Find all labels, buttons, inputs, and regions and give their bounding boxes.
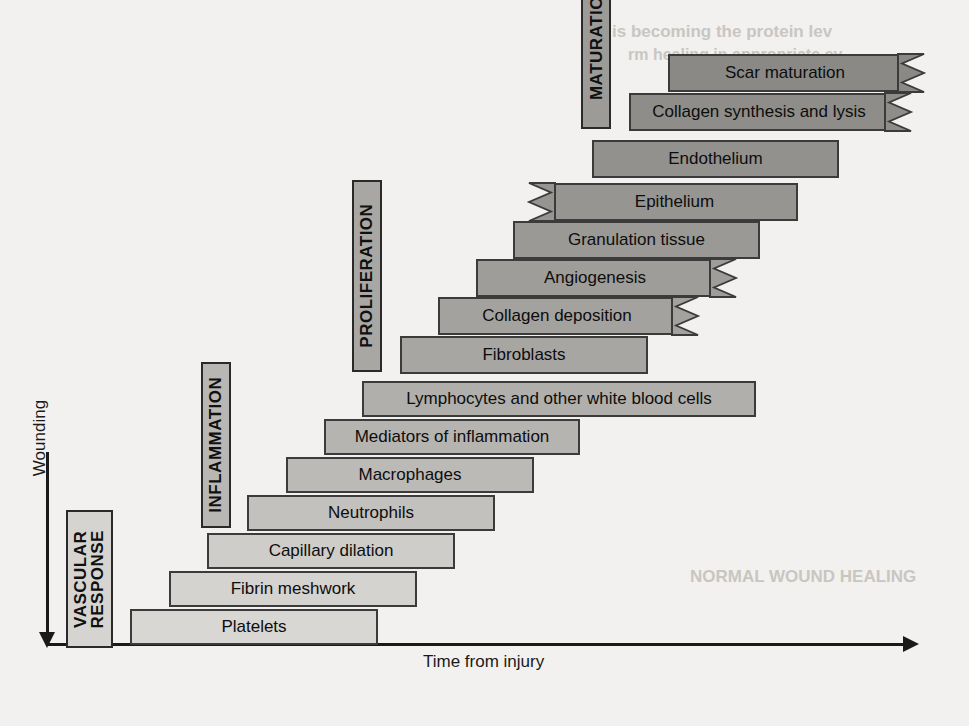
- process-bar-label: Collagen synthesis and lysis: [652, 102, 866, 122]
- torn-edge-right-icon: [672, 297, 698, 335]
- process-bar: Mediators of inflammation: [324, 419, 580, 455]
- x-axis-label: Time from injury: [423, 652, 544, 672]
- process-bar: Platelets: [130, 609, 378, 645]
- x-axis-arrow-icon: [903, 636, 919, 652]
- process-bar: Capillary dilation: [207, 533, 455, 569]
- torn-edge-right-icon: [898, 54, 924, 92]
- process-bar-label: Platelets: [221, 617, 286, 637]
- torn-edge-right-icon: [885, 93, 911, 131]
- process-bar-label: Angiogenesis: [544, 268, 646, 288]
- process-bar-label: Mediators of inflammation: [355, 427, 550, 447]
- phase-label-text: MATURATION: [587, 0, 604, 100]
- process-bar-label: Lymphocytes and other white blood cells: [406, 389, 712, 409]
- phase-label-proliferation: PROLIFERATION: [352, 180, 382, 372]
- process-bar: Fibrin meshwork: [169, 571, 417, 607]
- process-bar: Neutrophils: [247, 495, 495, 531]
- process-bar-label: Granulation tissue: [568, 230, 705, 250]
- phase-label-vascular-response: VASCULARRESPONSE: [66, 510, 113, 648]
- y-axis-label: Wounding: [30, 378, 50, 498]
- y-axis-arrow-icon: [39, 632, 55, 648]
- process-bar: Epithelium: [551, 183, 798, 221]
- process-bar-label: Collagen deposition: [482, 306, 631, 326]
- process-bar: Endothelium: [592, 140, 839, 178]
- process-bar: Macrophages: [286, 457, 534, 493]
- process-bar: Collagen synthesis and lysis: [629, 93, 889, 131]
- torn-edge-right-icon: [710, 259, 736, 297]
- bleed-through-text: is becoming the protein lev: [612, 22, 832, 42]
- process-bar-label: Neutrophils: [328, 503, 414, 523]
- phase-label-text: VASCULARRESPONSE: [72, 530, 107, 628]
- phase-label-text: INFLAMMATION: [207, 377, 224, 513]
- process-bar: Granulation tissue: [513, 221, 760, 259]
- process-bar-label: Endothelium: [668, 149, 763, 169]
- process-bar: Collagen deposition: [438, 297, 676, 335]
- phase-label-inflammation: INFLAMMATION: [201, 362, 231, 528]
- process-bar-label: Fibroblasts: [482, 345, 565, 365]
- process-bar-label: Fibrin meshwork: [231, 579, 356, 599]
- process-bar: Lymphocytes and other white blood cells: [362, 381, 756, 417]
- wound-healing-diagram: is becoming the protein levrm healing in…: [0, 0, 969, 726]
- process-bar-label: Capillary dilation: [269, 541, 394, 561]
- process-bar-label: Scar maturation: [725, 63, 845, 83]
- process-bar-label: Epithelium: [635, 192, 714, 212]
- process-bar: Scar maturation: [668, 54, 902, 92]
- phase-label-maturation: MATURATION: [581, 0, 611, 129]
- bleed-through-text: NORMAL WOUND HEALING: [690, 567, 916, 587]
- process-bar: Fibroblasts: [400, 336, 648, 374]
- phase-label-text: PROLIFERATION: [358, 204, 375, 348]
- process-bar: Angiogenesis: [476, 259, 714, 297]
- process-bar-label: Macrophages: [358, 465, 461, 485]
- torn-edge-left-icon: [529, 183, 555, 221]
